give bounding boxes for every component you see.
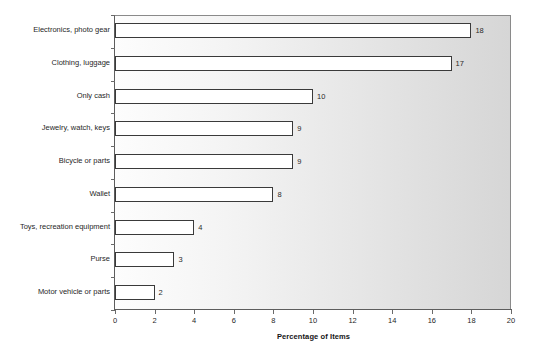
bar xyxy=(115,187,273,202)
bar-value-label: 9 xyxy=(297,155,301,168)
bar xyxy=(115,220,194,235)
bar-value-label: 3 xyxy=(178,253,182,266)
x-tick-label: 10 xyxy=(298,316,328,326)
x-tick-label: 6 xyxy=(219,316,249,326)
bar-value-label: 2 xyxy=(159,286,163,299)
x-tick-label: 0 xyxy=(100,316,130,326)
bar xyxy=(115,56,452,71)
bar-value-label: 18 xyxy=(475,24,483,37)
bar-chart: Electronics, photo gearClothing, luggage… xyxy=(0,0,540,356)
x-tick-label: 12 xyxy=(338,316,368,326)
x-tick-mark xyxy=(511,310,512,314)
bar-value-label: 17 xyxy=(456,57,464,70)
bar-row: 9 xyxy=(0,113,540,145)
bar-value-label: 9 xyxy=(297,122,301,135)
x-tick-label: 18 xyxy=(456,316,486,326)
x-tick-label: 20 xyxy=(496,316,526,326)
bar-row: 18 xyxy=(0,15,540,47)
x-tick-label: 8 xyxy=(258,316,288,326)
bar-row: 9 xyxy=(0,146,540,178)
x-tick-label: 16 xyxy=(417,316,447,326)
bar-row: 3 xyxy=(0,244,540,276)
bar xyxy=(115,252,174,267)
x-tick-mark xyxy=(392,310,393,314)
x-tick-mark xyxy=(155,310,156,314)
x-tick-mark xyxy=(273,310,274,314)
bar xyxy=(115,89,313,104)
chart-title xyxy=(0,0,540,2)
x-tick-mark xyxy=(115,310,116,314)
bar-row: 8 xyxy=(0,179,540,211)
bar-value-label: 10 xyxy=(317,90,325,103)
bar xyxy=(115,285,155,300)
x-tick-mark xyxy=(194,310,195,314)
bar-row: 2 xyxy=(0,277,540,309)
bar xyxy=(115,121,293,136)
x-tick-label: 2 xyxy=(140,316,170,326)
x-tick-mark xyxy=(234,310,235,314)
x-tick-label: 14 xyxy=(377,316,407,326)
x-tick-mark xyxy=(432,310,433,314)
bar-row: 17 xyxy=(0,48,540,80)
x-axis-title: Percentage of Items xyxy=(115,332,512,341)
bar xyxy=(115,23,471,38)
bar-value-label: 8 xyxy=(277,188,281,201)
bar-row: 10 xyxy=(0,81,540,113)
bar xyxy=(115,154,293,169)
x-tick-mark xyxy=(471,310,472,314)
x-tick-mark xyxy=(313,310,314,314)
bar-row: 4 xyxy=(0,212,540,244)
x-tick-label: 4 xyxy=(179,316,209,326)
bar-value-label: 4 xyxy=(198,221,202,234)
x-tick-mark xyxy=(353,310,354,314)
